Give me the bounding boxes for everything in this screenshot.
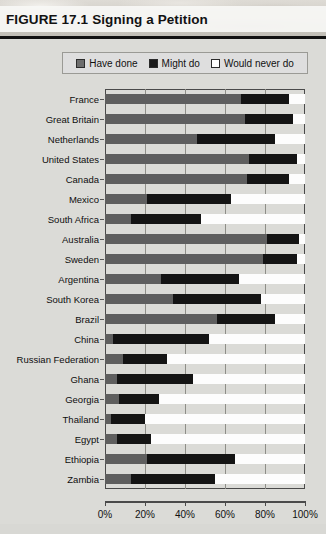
y-axis-tick <box>100 99 104 100</box>
y-axis-tick <box>100 119 104 120</box>
y-axis-label: Netherlands <box>48 135 99 145</box>
x-axis-tick-label: 40% <box>175 509 195 520</box>
bar-segment <box>215 474 305 484</box>
bar-segment <box>145 414 305 424</box>
plot-area <box>105 89 305 489</box>
x-axis-tick <box>305 501 306 506</box>
figure-title-bar: FIGURE 17.1Signing a Petition <box>0 6 326 32</box>
bar-row <box>105 294 305 304</box>
y-axis-label: Georgia <box>65 395 99 405</box>
bar-segment <box>209 334 305 344</box>
y-axis-label: Ghana <box>70 375 99 385</box>
bar-row <box>105 434 305 444</box>
bar-segment <box>105 114 245 124</box>
y-axis-tick <box>100 239 104 240</box>
y-axis-label: South Africa <box>48 215 99 225</box>
bar-segment <box>147 454 235 464</box>
bar-row <box>105 414 305 424</box>
y-axis-label: Great Britain <box>46 115 99 125</box>
bar-row <box>105 354 305 364</box>
bar-segment <box>105 294 173 304</box>
bar-segment <box>105 474 131 484</box>
bar-segment <box>197 134 275 144</box>
bar-segment <box>131 474 215 484</box>
bar-segment <box>117 374 193 384</box>
bar-segment <box>201 214 305 224</box>
x-axis-tick <box>265 501 266 506</box>
legend-swatch-have-done-icon <box>76 59 85 68</box>
bar-segment <box>235 454 305 464</box>
bar-rows <box>105 89 305 489</box>
bar-segment <box>267 234 299 244</box>
bar-segment <box>297 254 305 264</box>
y-axis-tick <box>100 359 104 360</box>
y-axis-label: Russian Federation <box>17 355 99 365</box>
bar-segment <box>241 94 289 104</box>
bar-segment <box>105 454 147 464</box>
y-axis-tick <box>100 339 104 340</box>
y-axis-label: Brazil <box>75 315 99 325</box>
bar-segment <box>105 374 117 384</box>
bar-row <box>105 94 305 104</box>
y-axis-label: United States <box>42 155 99 165</box>
bar-row <box>105 194 305 204</box>
legend-item-have-done: Have done <box>76 58 137 69</box>
chart-panel: Have done Might do Would never do France… <box>0 39 326 524</box>
bar-row <box>105 374 305 384</box>
bar-segment <box>173 294 261 304</box>
bar-row <box>105 134 305 144</box>
y-axis-tick <box>100 419 104 420</box>
bar-segment <box>105 394 119 404</box>
y-axis-label: China <box>74 335 99 345</box>
bar-segment <box>239 274 305 284</box>
figure-page: FIGURE 17.1Signing a Petition Have done … <box>0 0 326 534</box>
y-axis-tick <box>100 299 104 300</box>
bar-segment <box>289 174 305 184</box>
bar-segment <box>275 134 305 144</box>
figure-title: Signing a Petition <box>92 12 208 27</box>
chart-legend: Have done Might do Would never do <box>62 52 308 74</box>
bar-row <box>105 254 305 264</box>
bar-row <box>105 394 305 404</box>
y-axis-label: Canada <box>66 175 99 185</box>
bar-segment <box>131 214 201 224</box>
bar-segment <box>105 174 247 184</box>
bar-segment <box>275 314 305 324</box>
bar-segment <box>147 194 231 204</box>
y-axis-label: Zambia <box>67 475 99 485</box>
bar-segment <box>261 294 305 304</box>
y-axis-label: Egypt <box>75 435 99 445</box>
bar-segment <box>231 194 305 204</box>
y-axis-tick <box>100 459 104 460</box>
y-axis-label: Mexico <box>69 195 99 205</box>
x-axis-tick <box>185 501 186 506</box>
y-axis-label: Thailand <box>63 415 99 425</box>
bar-segment <box>247 174 289 184</box>
y-axis-label: South Korea <box>46 295 99 305</box>
x-axis-tick-label: 60% <box>215 509 235 520</box>
y-axis-label: France <box>69 95 99 105</box>
bar-segment <box>161 274 239 284</box>
bar-segment <box>113 334 209 344</box>
y-axis-label: Ethiopia <box>65 455 99 465</box>
bar-segment <box>105 254 263 264</box>
legend-label-have-done: Have done <box>89 58 137 69</box>
y-axis-category-labels: FranceGreat BritainNetherlandsUnited Sta… <box>0 89 103 489</box>
bar-segment <box>105 314 217 324</box>
bar-segment <box>299 234 305 244</box>
y-axis-tick <box>100 139 104 140</box>
bar-row <box>105 274 305 284</box>
y-axis-tick <box>100 219 104 220</box>
bar-segment <box>119 394 159 404</box>
y-axis-tick <box>100 379 104 380</box>
bar-segment <box>105 194 147 204</box>
bar-segment <box>105 134 197 144</box>
bar-segment <box>217 314 275 324</box>
bar-row <box>105 314 305 324</box>
bar-segment <box>105 94 241 104</box>
bar-segment <box>263 254 297 264</box>
x-axis-tick-label: 100% <box>292 509 318 520</box>
legend-item-would-never-do: Would never do <box>211 58 294 69</box>
y-axis-tick <box>100 279 104 280</box>
bar-segment <box>293 114 305 124</box>
